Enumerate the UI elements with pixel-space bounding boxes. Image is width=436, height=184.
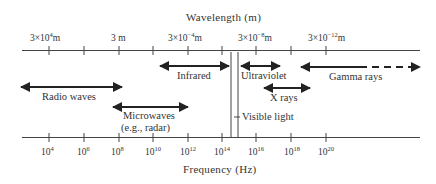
frequency-axis-title: Frequency (Hz) [183, 163, 257, 175]
gamma-rays-label: Gamma rays [329, 71, 382, 83]
frequency-label: 1016 [248, 146, 264, 158]
x-rays-label: X rays [270, 92, 298, 104]
em-spectrum-diagram: Wavelength (m) Frequency (Hz) 3×104m 3 m… [0, 0, 436, 184]
frequency-label: 1020 [318, 146, 334, 158]
wavelength-label: 3×10−8m [238, 32, 272, 44]
ultraviolet-label: Ultraviolet [241, 70, 287, 82]
visible-light-band [231, 52, 240, 138]
frequency-label: 108 [111, 146, 124, 158]
wavelength-label: 3×10−12m [308, 32, 345, 44]
wavelength-label: 3×10−4m [168, 32, 202, 44]
frequency-label: 1014 [214, 146, 230, 158]
frequency-label: 1010 [145, 146, 161, 158]
wavelength-axis-title: Wavelength (m) [186, 11, 261, 23]
frequency-label: 106 [77, 146, 90, 158]
microwaves-sublabel: (e.g., radar) [121, 122, 170, 134]
wavelength-label: 3 m [111, 32, 126, 44]
wavelength-axis [22, 46, 420, 55]
frequency-axis [22, 133, 420, 142]
radio-waves-label: Radio waves [42, 91, 96, 103]
frequency-label: 1018 [284, 146, 300, 158]
microwaves-label: Microwaves [123, 110, 175, 122]
wavelength-label: 3×104m [30, 32, 60, 44]
infrared-label: Infrared [177, 70, 211, 82]
frequency-label: 104 [41, 146, 54, 158]
frequency-label: 1012 [180, 146, 196, 158]
visible-light-label: Visible light [242, 111, 294, 123]
